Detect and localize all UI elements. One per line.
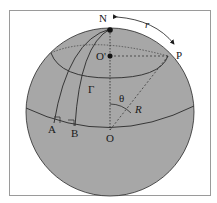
north-pole-point <box>107 27 113 33</box>
label-theta: θ <box>119 92 124 104</box>
label-curve-gamma: Γ <box>88 83 94 95</box>
label-arc-length: r <box>145 18 150 30</box>
label-cap-center: O' <box>96 50 106 62</box>
sphere-diagram: N r P O' Γ θ R A B O <box>0 0 217 203</box>
label-point-p: P <box>176 49 182 61</box>
label-sphere-center: O <box>106 132 114 144</box>
cap-center-point <box>108 54 113 59</box>
label-point-a: A <box>48 123 56 135</box>
label-point-b: B <box>71 127 78 139</box>
label-north-pole: N <box>99 12 107 24</box>
label-radius: R <box>134 103 142 115</box>
